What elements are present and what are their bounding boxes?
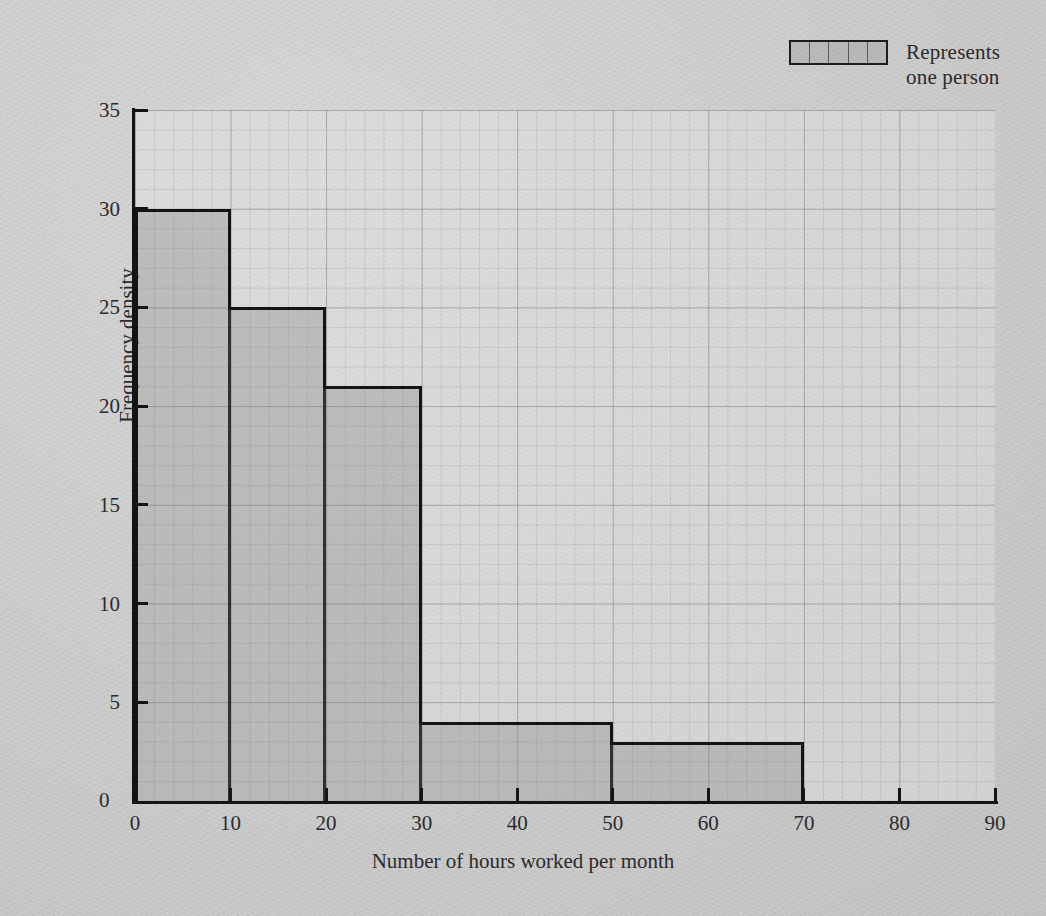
legend-swatch-cell: [849, 42, 868, 63]
legend-swatch-cell: [791, 42, 810, 63]
histogram-bar: [135, 209, 231, 801]
y-axis-tick: [135, 602, 148, 605]
y-axis-tick: [135, 109, 148, 112]
x-axis-tick: [611, 788, 614, 801]
legend-label: Represents one person: [906, 40, 1000, 90]
y-axis-tick-label: 20: [99, 394, 120, 419]
y-axis-tick: [135, 306, 148, 309]
x-axis-tick: [420, 788, 423, 801]
legend: Represents one person: [789, 40, 1000, 90]
y-axis-tick-label: 15: [99, 492, 120, 517]
x-axis-tick: [802, 788, 805, 801]
x-axis-tick-label: 10: [220, 811, 241, 836]
y-axis-tick: [135, 207, 148, 210]
x-axis-tick: [994, 788, 997, 801]
bars-group: [135, 110, 995, 801]
x-axis-line: [132, 801, 998, 804]
x-axis-tick-label: 40: [507, 811, 528, 836]
histogram-bar: [228, 307, 327, 801]
x-axis-tick: [707, 788, 710, 801]
x-axis-tick-label: 70: [793, 811, 814, 836]
legend-swatch-cell: [810, 42, 829, 63]
plot-area: 05101520253035 0102030405060708090 0: [135, 110, 995, 801]
x-axis-tick-label: 50: [602, 811, 623, 836]
x-axis-tick: [898, 788, 901, 801]
x-axis-tick: [229, 788, 232, 801]
histogram-page: Represents one person Frequency density …: [0, 0, 1046, 916]
y-axis-tick-label: 25: [99, 295, 120, 320]
y-axis-tick: [135, 405, 148, 408]
y-axis-tick: [135, 503, 148, 506]
histogram-bar: [323, 386, 422, 801]
y-axis-tick: [135, 701, 148, 704]
x-axis-title: Number of hours worked per month: [0, 849, 1046, 874]
y-axis-line: [132, 108, 135, 801]
x-axis-tick: [516, 788, 519, 801]
y-axis-tick-label: 5: [110, 690, 121, 715]
legend-swatch-cell: [829, 42, 848, 63]
x-axis-tick-label: 60: [698, 811, 719, 836]
origin-zero-label: 0: [99, 788, 110, 813]
legend-swatch-cell: [868, 42, 886, 63]
y-axis-tick-label: 10: [99, 591, 120, 616]
x-axis-tick: [325, 788, 328, 801]
x-axis-tick-label: 20: [316, 811, 337, 836]
x-axis-tick-label: 0: [130, 811, 141, 836]
legend-swatch-icon: [789, 40, 888, 65]
x-axis-tick-label: 80: [889, 811, 910, 836]
x-axis-tick-label: 30: [411, 811, 432, 836]
x-axis-tick-label: 90: [985, 811, 1006, 836]
y-axis-tick-label: 35: [99, 98, 120, 123]
y-axis-tick-label: 30: [99, 196, 120, 221]
